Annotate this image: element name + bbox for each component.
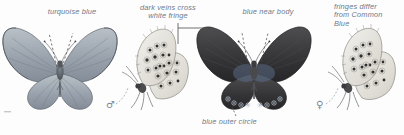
leader-dark-veins	[178, 23, 206, 44]
annotation-blue-outer-circle: blue outer circle	[202, 118, 290, 126]
male-symbol-icon: ♂	[106, 100, 115, 110]
leader-turquoise-blue	[49, 33, 73, 67]
leader-blue-outer-circle	[232, 107, 236, 116]
leader-sex-symbols	[116, 88, 338, 104]
annotation-blue-near-body: blue near body	[224, 8, 312, 16]
leader-blue-near-body	[242, 33, 268, 70]
butterfly-identification-plate: turquoise blue dark veins cross white fr…	[0, 0, 404, 135]
annotation-dark-veins-white-fringe: dark veins cross white fringe	[124, 4, 212, 21]
annotation-fringes-differ: fringes differ from Common Blue	[334, 3, 402, 28]
female-symbol-icon: ♀	[316, 100, 323, 110]
annotation-turquoise-blue: turquoise blue	[32, 8, 112, 16]
